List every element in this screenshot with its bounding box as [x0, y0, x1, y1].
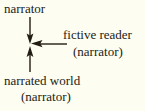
node-sublabel-fictive-reader: (narrator) [73, 45, 123, 58]
node-label-narrator-top: narrator [4, 2, 45, 15]
node-label-fictive-reader: fictive reader [63, 28, 132, 41]
arrow-from-narrated-world-icon [27, 46, 34, 72]
arrow-from-fictive-reader-icon [31, 40, 67, 47]
node-sublabel-narrated-world: (narrator) [21, 90, 71, 103]
arrow-from-narrator-icon [27, 17, 34, 44]
node-label-narrated-world: narrated world [4, 74, 80, 87]
narrative-communication-diagram: narrator fictive reader (narrator) narra… [0, 0, 145, 111]
